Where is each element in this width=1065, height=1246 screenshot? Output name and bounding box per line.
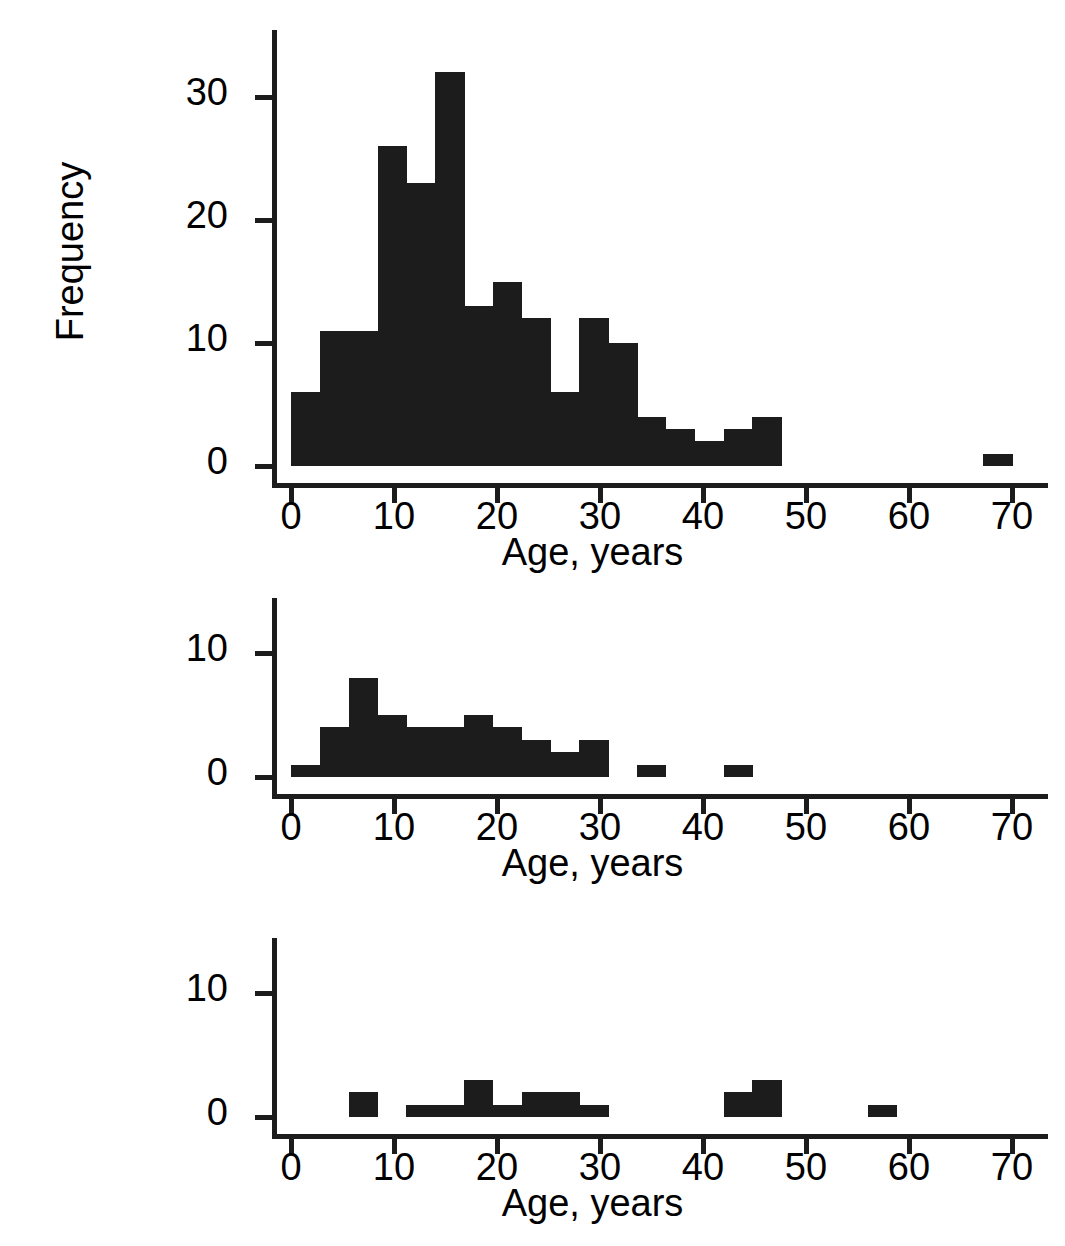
histogram-bar <box>378 146 407 466</box>
y-axis-tick <box>255 218 274 223</box>
histogram-bar <box>579 1105 608 1117</box>
histogram-bar <box>349 331 378 466</box>
histogram-bar <box>493 1105 522 1117</box>
x-axis-title: Age, years <box>0 1182 1065 1225</box>
histogram-bar <box>349 678 378 777</box>
y-axis-tick-label: 0 <box>78 440 228 483</box>
y-axis-tick <box>255 341 274 346</box>
histogram-bar <box>724 1092 753 1117</box>
y-axis-tick-label: 30 <box>78 71 228 114</box>
histogram-bar <box>406 1105 435 1117</box>
histogram-bar <box>724 429 753 466</box>
histogram-bar <box>551 392 580 466</box>
histogram-bar <box>579 318 608 466</box>
histogram-bar <box>551 1092 580 1117</box>
histogram-bar <box>579 740 608 777</box>
histogram-bar <box>320 727 349 777</box>
histogram-bar <box>464 715 493 777</box>
panel-2: 010203040506070010Age, years <box>0 580 1065 900</box>
histogram-bar <box>291 392 320 466</box>
y-axis-line <box>272 938 277 1138</box>
histogram-bar <box>464 306 493 466</box>
histogram-bar <box>637 765 666 777</box>
histogram-bar <box>493 727 522 777</box>
y-axis-tick-label: 10 <box>78 967 228 1010</box>
histogram-bar <box>695 441 724 466</box>
panel-1: 0102030405060700102030Age, years <box>0 0 1065 580</box>
y-axis-tick <box>255 95 274 100</box>
histogram-bar <box>724 765 753 777</box>
histogram-bar <box>752 1080 781 1117</box>
y-axis-tick <box>255 1115 274 1120</box>
y-axis-tick <box>255 991 274 996</box>
y-axis-tick-label: 0 <box>78 1091 228 1134</box>
histogram-bar <box>752 417 781 466</box>
y-axis-line <box>272 598 277 798</box>
histogram-figure: Frequency 0102030405060700102030Age, yea… <box>0 0 1065 1246</box>
histogram-bar <box>435 727 464 777</box>
histogram-bar <box>349 1092 378 1117</box>
histogram-bar <box>637 417 666 466</box>
x-axis-line <box>272 1134 1048 1139</box>
histogram-bar <box>868 1105 897 1117</box>
histogram-bar <box>406 183 435 466</box>
y-axis-tick-label: 0 <box>78 751 228 794</box>
histogram-bar <box>464 1080 493 1117</box>
x-axis-line <box>272 483 1048 488</box>
y-axis-tick <box>255 775 274 780</box>
histogram-bar <box>493 282 522 467</box>
y-axis-tick-label: 10 <box>78 317 228 360</box>
x-axis-title: Age, years <box>0 842 1065 885</box>
histogram-bar <box>666 429 695 466</box>
x-axis-title: Age, years <box>0 531 1065 574</box>
histogram-bar <box>435 72 464 466</box>
y-axis-tick <box>255 464 274 469</box>
histogram-bar <box>551 752 580 777</box>
histogram-bar <box>522 740 551 777</box>
histogram-bar <box>291 765 320 777</box>
histogram-bar <box>320 331 349 466</box>
histogram-bar <box>435 1105 464 1117</box>
histogram-bar <box>522 318 551 466</box>
panel-3: 010203040506070010Age, years <box>0 900 1065 1246</box>
histogram-bar <box>406 727 435 777</box>
y-axis-tick <box>255 651 274 656</box>
y-axis-tick-label: 20 <box>78 194 228 237</box>
histogram-bar <box>608 343 637 466</box>
histogram-bar <box>522 1092 551 1117</box>
x-axis-line <box>272 794 1048 799</box>
histogram-bar <box>378 715 407 777</box>
y-axis-tick-label: 10 <box>78 627 228 670</box>
histogram-bar <box>983 454 1012 466</box>
